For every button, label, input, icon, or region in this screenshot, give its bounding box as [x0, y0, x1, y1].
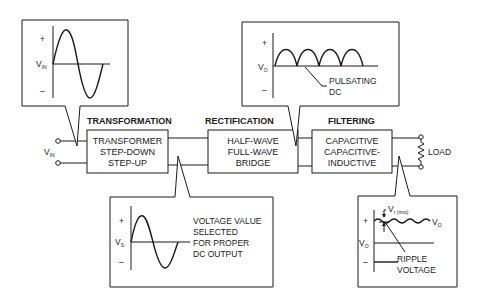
svg-text:TRANSFORMER: TRANSFORMER	[93, 136, 163, 146]
svg-text:INDUCTIVE: INDUCTIVE	[328, 158, 377, 168]
svg-text:+: +	[262, 38, 267, 48]
input-label: VIN	[44, 147, 55, 158]
stage-transformation: TRANSFORMATION TRANSFORMER STEP-DOWN STE…	[87, 116, 172, 173]
callout-ripple-voltage: Vr (rms) VO + VO – RIPPLE VOLTAGE	[358, 156, 457, 287]
svg-text:–: –	[363, 257, 368, 267]
svg-text:+: +	[363, 216, 368, 226]
svg-text:VOLTAGE VALUE: VOLTAGE VALUE	[193, 216, 262, 226]
callout-input-waveform: + VIN –	[22, 20, 128, 146]
svg-text:HALF-WAVE: HALF-WAVE	[227, 136, 279, 146]
svg-text:STEP-DOWN: STEP-DOWN	[100, 147, 155, 157]
resistor-icon	[418, 139, 424, 165]
power-supply-block-diagram: VIN LOAD TRANSFORMATION TRANSFORMER STEP…	[0, 0, 477, 306]
svg-text:CAPACITIVE-: CAPACITIVE-	[324, 147, 380, 157]
svg-text:CAPACITIVE: CAPACITIVE	[326, 136, 379, 146]
stage-header: FILTERING	[328, 116, 375, 126]
stage-header: TRANSFORMATION	[87, 116, 172, 126]
svg-text:+: +	[40, 34, 45, 44]
svg-text:+: +	[119, 216, 124, 226]
callout-pulsating-dc: + VO – PULSATING DC	[242, 22, 399, 146]
load: LOAD	[418, 135, 451, 169]
svg-text:DC: DC	[329, 87, 341, 97]
svg-text:–: –	[262, 85, 267, 95]
svg-text:SELECTED: SELECTED	[193, 227, 238, 237]
svg-text:STEP-UP: STEP-UP	[108, 158, 147, 168]
svg-text:DC OUTPUT: DC OUTPUT	[193, 249, 243, 259]
stage-header: RECTIFICATION	[205, 116, 274, 126]
svg-text:–: –	[119, 257, 124, 267]
svg-text:–: –	[40, 86, 45, 96]
input-terminals: VIN	[44, 139, 60, 166]
stage-filtering: FILTERING CAPACITIVE CAPACITIVE- INDUCTI…	[312, 116, 392, 173]
svg-text:VOLTAGE: VOLTAGE	[397, 265, 436, 275]
svg-text:BRIDGE: BRIDGE	[236, 158, 271, 168]
svg-text:RIPPLE: RIPPLE	[397, 254, 428, 264]
svg-text:FOR PROPER: FOR PROPER	[193, 238, 249, 248]
input-terminal-top	[56, 139, 61, 144]
load-label: LOAD	[428, 147, 451, 157]
svg-text:PULSATING: PULSATING	[329, 76, 377, 86]
input-terminal-bottom	[56, 161, 61, 166]
callout-secondary-voltage: + VS – VOLTAGE VALUE SELECTED FOR PROPER…	[110, 156, 273, 287]
stage-rectification: RECTIFICATION HALF-WAVE FULL-WAVE BRIDGE	[205, 116, 298, 173]
svg-text:FULL-WAVE: FULL-WAVE	[228, 147, 279, 157]
